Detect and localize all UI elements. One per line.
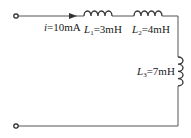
inductor-l1-icon bbox=[84, 11, 112, 16]
inductor-l3-icon bbox=[178, 57, 183, 86]
l3-label: L3=7mH bbox=[136, 65, 175, 79]
circuit-diagram: i=10mA L1=3mH L2=4mH L3=7mH bbox=[0, 0, 191, 138]
l1-label: L1=3mH bbox=[83, 23, 122, 37]
current-arrow-icon bbox=[69, 13, 77, 19]
current-label: i=10mA bbox=[44, 21, 81, 33]
terminal-bottom-icon bbox=[14, 124, 18, 128]
terminal-top-icon bbox=[14, 14, 18, 18]
l2-label: L2=4mH bbox=[131, 23, 170, 37]
inductor-l2-icon bbox=[134, 11, 162, 16]
